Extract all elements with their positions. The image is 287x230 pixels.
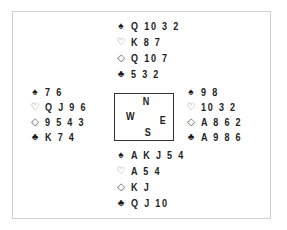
- north-spades: Q 10 3 2: [131, 18, 180, 34]
- spade-icon: ♠: [30, 84, 40, 100]
- spade-icon: ♠: [186, 84, 196, 100]
- club-icon: ♣: [30, 129, 40, 145]
- compass-west: W: [126, 110, 135, 122]
- north-diamonds: Q 10 7: [131, 50, 169, 66]
- club-icon: ♣: [116, 195, 126, 211]
- diamond-icon: ◇: [116, 179, 126, 195]
- heart-icon: ♡: [186, 99, 196, 115]
- heart-icon: ♡: [30, 99, 40, 115]
- west-clubs: K 7 4: [45, 129, 76, 145]
- west-hearts: Q J 9 6: [45, 99, 87, 115]
- south-spades: A K J 5 4: [131, 147, 185, 163]
- east-clubs: A 9 8 6: [201, 129, 242, 145]
- north-clubs: 5 3 2: [131, 66, 160, 82]
- east-diamonds: A 8 6 2: [201, 114, 242, 130]
- diamond-icon: ◇: [30, 114, 40, 130]
- south-hearts: A 5 4: [131, 163, 161, 179]
- compass-box: N W E S: [114, 93, 174, 141]
- west-diamonds: 9 5 4 3: [45, 114, 85, 130]
- diamond-icon: ◇: [116, 50, 126, 66]
- compass-south: S: [145, 126, 151, 138]
- club-icon: ♣: [116, 66, 126, 82]
- west-spades: 7 6: [45, 84, 63, 100]
- diamond-icon: ◇: [186, 114, 196, 130]
- east-spades: 9 8: [201, 84, 219, 100]
- club-icon: ♣: [186, 129, 196, 145]
- south-clubs: Q J 10: [131, 195, 169, 211]
- spade-icon: ♠: [116, 147, 126, 163]
- east-hearts: 10 3 2: [201, 99, 237, 115]
- heart-icon: ♡: [116, 163, 126, 179]
- south-diamonds: K J: [131, 179, 150, 195]
- compass-east: E: [160, 114, 166, 126]
- compass-north: N: [143, 95, 150, 107]
- north-hearts: K 8 7: [131, 34, 162, 50]
- heart-icon: ♡: [116, 34, 126, 50]
- spade-icon: ♠: [116, 18, 126, 34]
